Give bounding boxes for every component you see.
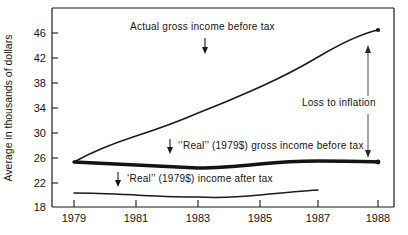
arrow-up-icon: [365, 45, 371, 53]
annotation-real-income-after-tax-label: ‘Real’’ (1979$) income after tax: [127, 173, 273, 184]
annotation-actual-gross-income-label: Actual gross income before tax: [130, 21, 275, 32]
x-tick-label-1988: 1988: [366, 212, 390, 224]
y-tick-label-34: 34: [34, 102, 46, 114]
x-tick-label-1983: 1983: [186, 212, 210, 224]
y-axis-tick-labels: 46 42 38 34 30 26 22 18: [34, 27, 46, 213]
income-line-chart: 46 42 38 34 30 26 22 18 Average in thous…: [0, 0, 408, 235]
y-axis-title: Average in thousands of dollars: [2, 35, 14, 182]
arrow-down-icon: [115, 180, 121, 187]
chart-page: 46 42 38 34 30 26 22 18 Average in thous…: [0, 0, 408, 235]
y-tick-label-46: 46: [34, 27, 46, 39]
arrow-down-icon: [365, 150, 371, 158]
y-axis-ticks: [52, 33, 58, 183]
y-tick-label-38: 38: [34, 77, 46, 89]
annotation-actual-gross-income: Actual gross income before tax: [130, 21, 275, 54]
annotation-real-income-after-tax: ‘Real’’ (1979$) income after tax: [115, 172, 273, 187]
x-axis-ticks: [74, 200, 378, 207]
arrow-down-icon: [167, 147, 173, 154]
y-tick-label-30: 30: [34, 127, 46, 139]
x-tick-label-1979: 1979: [62, 212, 86, 224]
x-tick-label-1981: 1981: [124, 212, 148, 224]
y-tick-label-42: 42: [34, 52, 46, 64]
x-tick-label-1985: 1985: [248, 212, 272, 224]
annotation-real-gross-income: ‘’Real’’ (1979$) gross income before tax: [167, 139, 364, 154]
y-tick-label-22: 22: [34, 177, 46, 189]
arrow-down-icon: [202, 47, 208, 54]
series-endpoint-actual-gross-income: [376, 28, 380, 32]
annotation-loss-to-inflation-label: Loss to inflation: [302, 97, 376, 108]
y-tick-label-18: 18: [34, 201, 46, 213]
x-axis-tick-labels: 1979 1981 1983 1985 1987 1988: [62, 212, 390, 224]
series-line-real-gross-income: [74, 161, 378, 168]
annotation-real-gross-income-label: ‘’Real’’ (1979$) gross income before tax: [178, 140, 364, 151]
x-tick-label-1987: 1987: [306, 212, 330, 224]
y-tick-label-26: 26: [34, 152, 46, 164]
series-line-real-income-after-tax: [74, 190, 318, 197]
series-endpoint-real-gross-income: [376, 160, 381, 165]
